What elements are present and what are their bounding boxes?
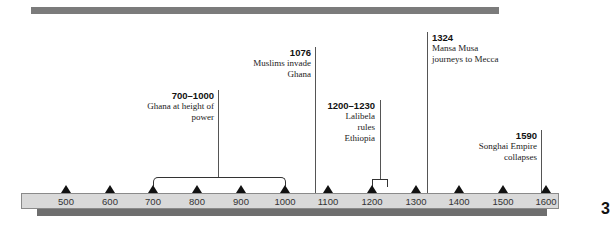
cropped-edge-glyph: 3: [601, 200, 610, 218]
event-year: 700–1000: [147, 90, 214, 101]
event-line-1324: [427, 32, 428, 193]
tick-label: 1100: [318, 196, 338, 207]
event-line-1076: [315, 47, 316, 194]
event-1200-1230: 1200–1230 Lalibela rules Ethiopia: [327, 100, 375, 144]
event-1324: 1324 Mansa Musa journeys to Mecca: [432, 32, 498, 65]
tick-label: 1000: [274, 196, 295, 207]
tick-label: 1300: [405, 196, 426, 207]
tick-label: 1400: [448, 196, 469, 207]
event-1076: 1076 Muslims invade Ghana: [253, 47, 311, 80]
tick-marker-600: [105, 185, 115, 193]
tick-marker-1000: [280, 185, 290, 193]
event-bracket-700-1000: [153, 177, 286, 186]
event-description: Lalibela rules Ethiopia: [327, 111, 375, 144]
event-description: Mansa Musa journeys to Mecca: [432, 43, 498, 65]
tick-marker-500: [61, 185, 71, 193]
tick-label: 900: [233, 196, 249, 207]
tick-marker-800: [192, 185, 202, 193]
event-700-1000: 700–1000 Ghana at height of power: [147, 90, 214, 123]
tick-marker-1400: [454, 185, 464, 193]
tick-label: 1500: [492, 196, 513, 207]
tick-label: 800: [189, 196, 205, 207]
event-year: 1200–1230: [327, 100, 375, 111]
event-1590: 1590 Songhai Empire collapses: [479, 130, 537, 163]
tick-label: 1600: [535, 196, 556, 207]
tick-marker-1200: [367, 185, 377, 193]
event-description: Ghana at height of power: [147, 101, 214, 123]
top-rule: [31, 7, 499, 14]
tick-label: 700: [145, 196, 161, 207]
event-year: 1590: [479, 130, 537, 141]
tick-marker-1600: [541, 185, 551, 193]
timeline-bar-shadow: [37, 209, 547, 216]
event-description: Muslims invade Ghana: [253, 58, 311, 80]
event-year: 1076: [253, 47, 311, 58]
tick-label: 500: [58, 196, 74, 207]
event-line-700-1000: [218, 90, 219, 177]
tick-marker-1100: [323, 185, 333, 193]
event-line-1200-1230: [380, 100, 381, 179]
tick-label: 600: [102, 196, 118, 207]
tick-marker-700: [148, 185, 158, 193]
tick-marker-900: [236, 185, 246, 193]
tick-label: 1200: [361, 196, 382, 207]
event-year: 1324: [432, 32, 498, 43]
tick-marker-1500: [498, 185, 508, 193]
event-line-1590: [541, 130, 542, 193]
event-description: Songhai Empire collapses: [479, 141, 537, 163]
tick-marker-1300: [411, 185, 421, 193]
